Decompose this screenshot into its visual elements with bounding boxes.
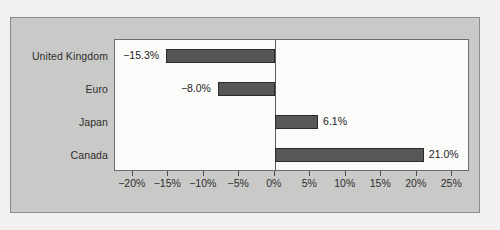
category-label: United Kingdom: [11, 50, 108, 62]
category-label: Japan: [11, 116, 108, 128]
bar-value-label: 21.0%: [429, 147, 459, 162]
bar[interactable]: [275, 148, 424, 162]
x-tick-mark: [345, 171, 346, 176]
x-tick-mark: [238, 171, 239, 176]
x-tick-mark: [203, 171, 204, 176]
bar[interactable]: [275, 115, 318, 129]
bar-value-label: −8.0%: [181, 81, 211, 96]
x-tick-label: −5%: [228, 177, 249, 189]
x-tick-mark: [451, 171, 452, 176]
chart-frame: United KingdomEuroJapanCanada −15.3%−8.0…: [10, 17, 480, 213]
x-tick-mark: [380, 171, 381, 176]
x-tick-label: 20%: [405, 177, 426, 189]
category-label: Euro: [11, 83, 108, 95]
x-axis: −20%−15%−10%−5%0%5%10%15%20%25%: [114, 171, 469, 201]
x-tick-label: 10%: [334, 177, 355, 189]
bar-row: 21.0%: [115, 139, 468, 172]
bar-row: −15.3%: [115, 40, 468, 73]
bar-row: −8.0%: [115, 73, 468, 106]
x-tick-label: −15%: [154, 177, 181, 189]
category-label: Canada: [11, 149, 108, 161]
x-tick-mark: [132, 171, 133, 176]
x-tick-mark: [416, 171, 417, 176]
x-tick-label: −20%: [118, 177, 145, 189]
x-tick-mark: [309, 171, 310, 176]
bar[interactable]: [218, 82, 275, 96]
plot-area: −15.3%−8.0%6.1%21.0%: [114, 39, 469, 171]
category-axis: United KingdomEuroJapanCanada: [11, 39, 108, 171]
x-tick-label: 25%: [441, 177, 462, 189]
x-tick-mark: [274, 171, 275, 176]
x-tick-label: −10%: [189, 177, 216, 189]
x-tick-label: 15%: [370, 177, 391, 189]
bar-value-label: −15.3%: [123, 48, 159, 63]
bar-value-label: 6.1%: [323, 114, 347, 129]
bar[interactable]: [166, 49, 275, 63]
x-tick-mark: [167, 171, 168, 176]
x-tick-label: 0%: [266, 177, 281, 189]
chart-page: United KingdomEuroJapanCanada −15.3%−8.0…: [0, 0, 500, 230]
x-tick-label: 5%: [302, 177, 317, 189]
bar-row: 6.1%: [115, 106, 468, 139]
